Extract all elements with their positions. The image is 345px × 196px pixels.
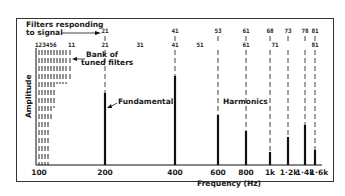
top-filter-number: 53 [214, 27, 222, 34]
top-filter-number: 41 [171, 27, 179, 34]
row2-filter-number: 71 [271, 41, 279, 48]
row2-filter-numbers: 21314151617181 [101, 41, 319, 48]
x-tick-label: 800 [238, 168, 254, 177]
y-axis-label: Amplitude [24, 74, 33, 118]
row2-filter-number: 31 [136, 41, 144, 48]
row2-filter-number: 61 [242, 41, 250, 48]
x-axis-label: Frequency (Hz) [197, 179, 261, 188]
filter-dashed-lines [105, 36, 315, 152]
x-tick-label: 200 [97, 168, 113, 177]
top-filter-number: 78 [301, 27, 309, 34]
top-filter-number: 73 [284, 27, 292, 34]
top-filter-number: 61 [242, 27, 250, 34]
fundamental-arrow-head-icon [107, 104, 112, 108]
top-filter-numbers: 2141536168737881 [101, 27, 319, 34]
bank-arrow-head-icon [72, 57, 77, 61]
x-tick-label: 600 [210, 168, 226, 177]
x-tick-label: 100 [31, 168, 47, 177]
row2-filter-number: 81 [311, 41, 319, 48]
filter-bank-dashes [39, 50, 70, 165]
harmonic-bars [105, 76, 315, 165]
filter-numbers-1-6: 123456 [35, 41, 57, 48]
filters-responding-label-line2: to signal [26, 28, 63, 37]
bank-label-line2: tuned filters [81, 58, 134, 67]
arrow-head-icon [95, 31, 101, 35]
row2-filter-number: 21 [101, 41, 109, 48]
x-tick-label: 1k [265, 168, 276, 177]
x-tick-label: 1·6k [310, 168, 329, 177]
row2-filter-number: 41 [171, 41, 179, 48]
top-filter-number: 68 [266, 27, 274, 34]
x-tick-labels: 1002004006008001k1·2k1·4k1·6k [31, 168, 329, 177]
filter-number-11: 11 [68, 41, 76, 48]
top-filter-number: 81 [311, 27, 319, 34]
x-tick-label: 400 [167, 168, 183, 177]
top-filter-number: 21 [101, 27, 109, 34]
row2-filter-number: 51 [196, 41, 204, 48]
fundamental-label: Fundamental [118, 97, 173, 106]
harmonics-filter-diagram: Amplitude Frequency (Hz) Filters respond… [0, 0, 345, 196]
